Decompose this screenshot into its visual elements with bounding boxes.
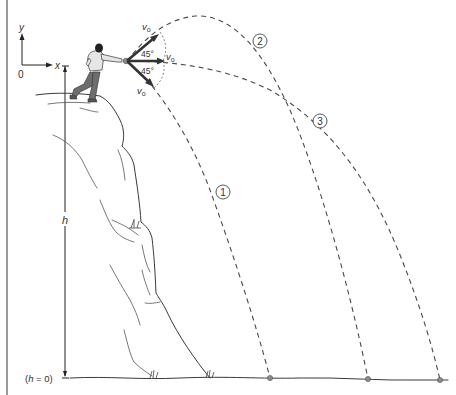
y-axis-label: y [18, 22, 25, 33]
ball-landing-3 [437, 377, 442, 382]
coordinate-axes: y x 0 [18, 22, 61, 80]
velocity-label-up: vo [142, 21, 151, 33]
angle-label-upper: 45° [141, 49, 154, 59]
ground-line [70, 377, 448, 380]
velocity-label-horizontal: vo [166, 51, 175, 63]
person-throwing-icon [70, 44, 129, 103]
ball-landing-2 [365, 376, 370, 381]
origin-label: 0 [18, 69, 24, 80]
velocity-vectors: 45° 45° vo vo vo [128, 21, 175, 97]
ground-level-label: (h = 0) [25, 373, 53, 384]
trajectory-2 [127, 16, 368, 379]
height-label: h [62, 214, 68, 226]
grass-tuft-icon [129, 219, 214, 378]
height-dimension: h (h = 0) [25, 66, 71, 384]
angle-label-lower: 45° [141, 66, 154, 76]
svg-text:3: 3 [317, 116, 323, 127]
cliff [36, 93, 214, 378]
svg-text:1: 1 [220, 187, 226, 198]
svg-text:2: 2 [257, 36, 263, 47]
velocity-label-down: vo [137, 85, 146, 97]
ball-landing-1 [267, 375, 272, 380]
x-axis-label: x [54, 60, 61, 71]
trajectory-3 [127, 61, 440, 380]
trajectory-label-2: 2 [253, 34, 267, 48]
projectile-cliff-diagram: y x 0 h (h = 0) [0, 0, 456, 395]
trajectory-label-1: 1 [216, 185, 230, 199]
trajectory-1 [152, 86, 270, 378]
trajectory-label-3: 3 [313, 114, 327, 128]
